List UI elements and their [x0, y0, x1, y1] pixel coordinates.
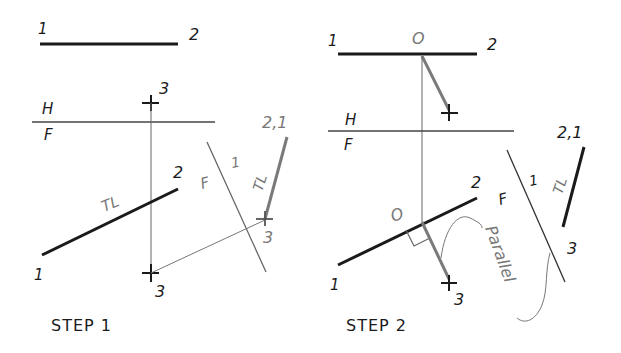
step1-fold-label-f: F — [44, 126, 53, 144]
step1-front-tl-label: TL — [99, 192, 122, 215]
step1-fold-label-1: 1 — [230, 154, 242, 171]
step2-fold-label-h: H — [345, 111, 356, 129]
step2-front-label-o: O — [388, 204, 406, 226]
step1-top-label-1: 1 — [38, 20, 48, 38]
step2-parallel-leader-left — [441, 217, 482, 258]
step1-aux-label-21: 2,1 — [262, 113, 287, 132]
step2-top-label-1: 1 — [328, 32, 338, 50]
step2-aux-label-21: 2,1 — [557, 123, 582, 142]
step2-top-distance-segment — [422, 56, 449, 110]
step1-aux-tl-label: TL — [250, 172, 270, 193]
step2-caption: STEP 2 — [346, 316, 407, 335]
step2-front-distance-segment — [422, 222, 449, 279]
step1-point3-aux-cross-icon — [256, 211, 273, 226]
step1-top-label-2: 2 — [189, 25, 199, 44]
step1-fold-label-h: H — [42, 100, 53, 118]
step2-fold-label-f: F — [344, 136, 353, 154]
step1-point3-front-label: 3 — [155, 282, 165, 301]
step1-point3-aux-label: 3 — [263, 228, 273, 247]
step1-front-label-2: 2 — [173, 163, 183, 182]
step2-parallel-annotation: Parallel — [481, 223, 519, 285]
step2-front-label-2: 2 — [471, 173, 481, 192]
step2-group: 1 O 2 H F 2 O 1 3 F 1 — [328, 29, 584, 335]
step2-fold-label-f: F — [496, 189, 509, 209]
diagram-canvas: 1 2 3 H F TL 2 1 3 F 1 2,1 — [0, 0, 621, 353]
step2-front-line-12 — [338, 198, 477, 265]
step1-group: 1 2 3 H F TL 2 1 3 F 1 2,1 — [32, 20, 287, 335]
step1-front-label-1: 1 — [34, 266, 44, 284]
step1-point3-top-label: 3 — [159, 79, 169, 98]
step2-top-label-o: O — [412, 29, 425, 48]
step2-point3-front-label: 3 — [454, 290, 464, 309]
step2-top-label-2: 2 — [487, 35, 497, 54]
step1-projector-aux — [151, 220, 265, 273]
step2-aux-label-3: 3 — [567, 239, 577, 258]
step2-fold-line-f1 — [507, 150, 565, 282]
step2-fold-label-1: 1 — [528, 172, 540, 189]
step2-aux-tl-label: TL — [550, 175, 570, 196]
step2-point3-top-cross-icon — [441, 104, 458, 121]
step2-point3-front-cross-icon — [441, 275, 457, 291]
step2-parallel-leader-right — [517, 253, 550, 321]
step1-point3-front-cross-icon — [142, 264, 159, 282]
step2-front-label-1: 1 — [330, 276, 340, 294]
step1-caption: STEP 1 — [51, 316, 112, 335]
step1-fold-label-f: F — [198, 173, 211, 193]
